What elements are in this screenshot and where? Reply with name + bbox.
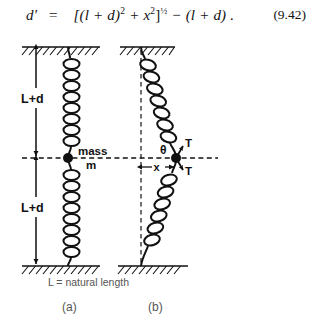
mass-dot-b bbox=[171, 153, 181, 163]
panel-b: θ T T x (b) bbox=[118, 47, 192, 314]
equation-lhs: d′ bbox=[26, 7, 37, 23]
caption-panel-b: (b) bbox=[148, 300, 163, 314]
panel-a-top-support bbox=[22, 47, 100, 55]
spring-mass-figure: mass m L+d L+d L = natural length (a bbox=[0, 34, 328, 319]
angle-label: θ bbox=[160, 143, 167, 157]
dimension-upper-label: L+d bbox=[21, 92, 44, 106]
panel-b-top-support bbox=[120, 47, 175, 55]
mass-dot-a bbox=[63, 153, 73, 163]
caption-panel-a: (a) bbox=[62, 300, 77, 314]
dimension-upper: L+d bbox=[21, 49, 44, 156]
panel-b-lower-spring bbox=[141, 160, 178, 266]
equation-rhs-tail: − (l + d) . bbox=[167, 7, 234, 23]
natural-length-note: L = natural length bbox=[48, 276, 129, 288]
equation-number: (9.42) bbox=[273, 7, 306, 23]
displacement-measure: x bbox=[142, 160, 174, 173]
dimension-lower-label: L+d bbox=[21, 201, 44, 215]
dimension-lower: L+d bbox=[21, 160, 44, 264]
equation-rhs-mid: + x bbox=[125, 7, 150, 23]
tension-label-lower: T bbox=[185, 165, 192, 177]
panel-b-bottom-support bbox=[118, 266, 188, 274]
equation-expression: d′ = [(l + d)2 + x2]½ − (l + d) . bbox=[26, 6, 234, 24]
displacement-label: x bbox=[154, 161, 161, 173]
tension-label-upper: T bbox=[185, 137, 192, 149]
panel-a-upper-spring bbox=[64, 47, 80, 158]
panel-b-upper-spring bbox=[139, 47, 178, 156]
equation-rhs-open: [(l + d) bbox=[74, 7, 121, 23]
figure-diagram-area: mass m L+d L+d L = natural length (a bbox=[0, 34, 328, 319]
mass-label-line2: m bbox=[86, 159, 96, 171]
panel-a: mass m L+d L+d L = natural length (a bbox=[21, 47, 218, 314]
mass-label-line1: mass bbox=[78, 145, 107, 157]
panel-a-lower-spring bbox=[64, 158, 80, 266]
equation-equals: = bbox=[49, 7, 58, 23]
panel-a-bottom-support bbox=[22, 266, 100, 274]
equation-row: d′ = [(l + d)2 + x2]½ − (l + d) . (9.42) bbox=[0, 6, 328, 32]
figure-page: d′ = [(l + d)2 + x2]½ − (l + d) . (9.42) bbox=[0, 0, 328, 319]
